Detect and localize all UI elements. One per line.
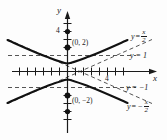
y-axis-arrowhead [65,11,70,19]
vertex-lower-label: (0, −2) [72,97,92,105]
asymptote-negative-fraction: x2 [144,99,150,115]
asymptote-negative-operator: = − [131,102,144,111]
hyperbola-figure: y x 4 4 (0, 2) (0, −2) y = 1 y = −1 y=x2… [0,0,167,140]
focus-upper-point [65,29,70,34]
vertex-upper-point [65,45,71,51]
asymptote-positive-label: y=x2 [131,29,147,45]
y-axis-label: y [57,6,61,15]
asymptote-negative-label: y= −x2 [127,99,149,115]
reference-line-upper-label: y = 1 [130,52,147,60]
reference-line-lower-label: y = −1 [126,84,148,92]
focus-lower-point [65,109,70,114]
asymptote-positive-denominator: 2 [141,37,147,44]
asymptote-negative-denominator: 2 [144,107,150,114]
vertex-lower-point [65,93,71,99]
y-axis-tick-label-4: 4 [56,27,60,35]
asymptote-positive-fraction: x2 [141,29,147,45]
hyperbola-plot-canvas [0,0,167,140]
x-axis-label: x [153,74,157,83]
vertex-upper-label: (0, 2) [72,39,88,47]
x-axis-tick-label-4: 4 [105,75,109,83]
